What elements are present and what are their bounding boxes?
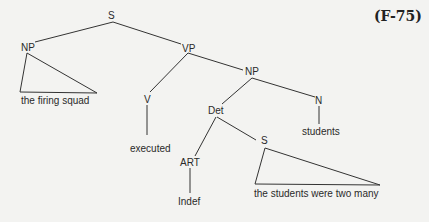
triangle-embedded-s bbox=[255, 148, 380, 185]
triangle-subject-np bbox=[20, 53, 97, 93]
node-n: N bbox=[315, 95, 322, 106]
leaf-embedded-clause: the students were two many bbox=[254, 188, 379, 199]
leaf-students: students bbox=[302, 126, 340, 137]
node-s-root: S bbox=[108, 10, 115, 21]
node-det: Det bbox=[208, 105, 224, 116]
edge-np-det bbox=[222, 78, 252, 104]
edge-vp-v bbox=[150, 53, 188, 92]
node-np-subject: NP bbox=[21, 42, 35, 53]
node-art: ART bbox=[180, 157, 200, 168]
node-s-embedded: S bbox=[261, 135, 268, 146]
edge-s-np bbox=[35, 22, 113, 42]
node-np-object: NP bbox=[245, 66, 259, 77]
edge-vp-np bbox=[188, 53, 243, 70]
edge-det-s bbox=[217, 117, 256, 140]
edge-np-n bbox=[252, 78, 315, 97]
node-vp: VP bbox=[182, 43, 196, 54]
leaf-the-firing-squad: the firing squad bbox=[21, 95, 89, 106]
edge-det-art bbox=[195, 117, 216, 156]
syntax-tree: S NP VP V NP Det N ART S the firing squa… bbox=[0, 0, 429, 222]
tree-edges bbox=[35, 22, 319, 193]
node-v: V bbox=[144, 94, 151, 105]
leaf-executed: executed bbox=[130, 143, 171, 154]
leaf-indef: Indef bbox=[178, 196, 200, 207]
edge-s-vp bbox=[113, 22, 181, 44]
